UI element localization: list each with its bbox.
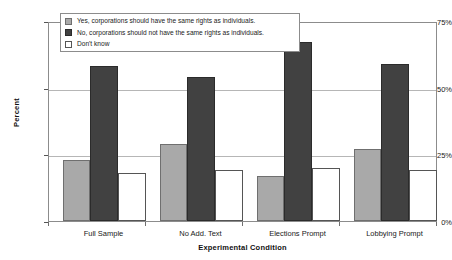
bar-full-sample-yes — [63, 160, 90, 221]
legend-swatch-dont-know-icon — [65, 41, 72, 48]
bar-full-sample-dk — [118, 173, 146, 221]
x-tick-label-full-sample: Full Sample — [84, 229, 124, 238]
legend-item-yes: Yes, corporations should have the same r… — [65, 16, 295, 27]
bar-group-lobbying-prompt — [354, 23, 437, 221]
legend-item-no: No, corporations should not have the sam… — [65, 27, 295, 38]
plot-area — [48, 22, 437, 222]
bars-layer — [49, 23, 436, 221]
bar-group-full-sample — [63, 23, 146, 221]
bar-group-no-add-text — [160, 23, 243, 221]
x-tick-mark-2 — [242, 222, 243, 226]
legend-label-yes: Yes, corporations should have the same r… — [77, 18, 255, 25]
chart-legend: Yes, corporations should have the same r… — [60, 13, 300, 52]
bar-no-add-text-no — [187, 77, 215, 221]
bar-elections-prompt-yes — [257, 176, 284, 221]
bar-no-add-text-dk — [215, 170, 243, 221]
x-tick-label-lobbying-prompt: Lobbying Prompt — [366, 229, 423, 238]
bar-lobbying-prompt-no — [381, 64, 409, 221]
legend-swatch-no-icon — [65, 29, 72, 36]
bar-chart: Percent 75% 50% 25% 0% — [0, 0, 452, 260]
bar-elections-prompt-dk — [312, 168, 340, 221]
legend-swatch-yes-icon — [65, 18, 72, 25]
y-axis-title: Percent — [12, 78, 21, 148]
legend-item-dont-know: Don't know — [65, 39, 295, 50]
bar-group-elections-prompt — [257, 23, 340, 221]
x-tick-label-elections-prompt: Elections Prompt — [269, 229, 326, 238]
x-tick-mark-4 — [436, 222, 437, 226]
x-tick-mark-0 — [48, 222, 49, 226]
legend-label-no: No, corporations should not have the sam… — [77, 30, 264, 37]
x-tick-mark-3 — [339, 222, 340, 226]
bar-no-add-text-yes — [160, 144, 187, 221]
bar-elections-prompt-no — [284, 42, 312, 221]
x-tick-label-no-add-text: No Add. Text — [179, 229, 221, 238]
bar-lobbying-prompt-yes — [354, 149, 381, 221]
legend-label-dont-know: Don't know — [77, 41, 109, 48]
x-axis-title: Experimental Condition — [48, 243, 437, 252]
bar-lobbying-prompt-dk — [409, 170, 437, 221]
x-tick-mark-1 — [145, 222, 146, 226]
bar-full-sample-no — [90, 66, 118, 221]
